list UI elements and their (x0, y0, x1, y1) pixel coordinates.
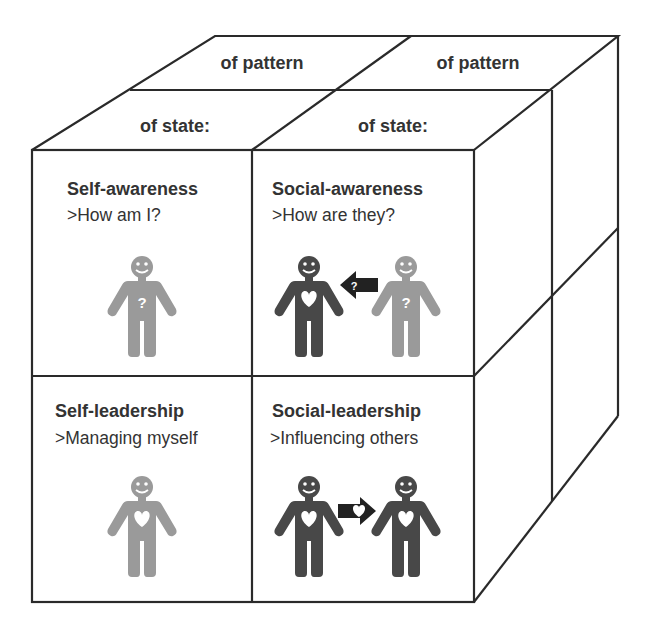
person-icon-light-question: ? (371, 256, 440, 357)
top-label-state-left: of state: (140, 116, 210, 137)
cube-diagram: ? ? ? (0, 0, 649, 628)
side-bottom-edge (474, 416, 618, 602)
cell-title-social-leadership: Social-leadership (272, 401, 421, 422)
cell-title-self-leadership: Self-leadership (55, 401, 184, 422)
cell-subtitle-self-leadership: >Managing myself (55, 428, 198, 449)
top-label-pattern-right: of pattern (437, 53, 520, 74)
cell-subtitle-social-leadership: >Influencing others (270, 428, 418, 449)
svg-text:?: ? (401, 294, 410, 311)
person-icon-dark-heart (274, 256, 343, 357)
cell-title-social-awareness: Social-awareness (272, 179, 423, 200)
person-icon-light-heart (107, 476, 176, 577)
person-icon-light-question: ? (107, 256, 176, 357)
person-icon-dark-heart (274, 476, 343, 577)
arrow-left-question-icon: ? (340, 271, 378, 299)
cell-subtitle-social-awareness: >How are they? (272, 205, 395, 226)
side-horizontal-divider (474, 228, 618, 376)
top-label-pattern-left: of pattern (221, 53, 304, 74)
top-label-state-right: of state: (358, 116, 428, 137)
arrow-right-heart-icon (338, 497, 376, 525)
cell-title-self-awareness: Self-awareness (67, 179, 198, 200)
svg-text:?: ? (351, 280, 358, 292)
person-icon-dark-heart (371, 476, 440, 577)
top-face-outline (32, 36, 618, 150)
svg-text:?: ? (137, 294, 146, 311)
cell-subtitle-self-awareness: >How am I? (67, 205, 161, 226)
